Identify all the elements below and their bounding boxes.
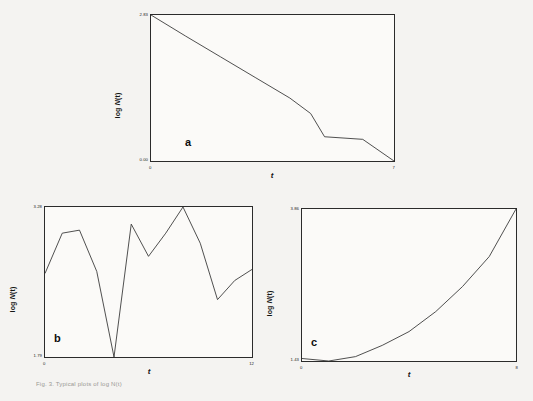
panel-a-xtick-left: 0: [149, 165, 167, 170]
panel-c-xtick-left: 0: [300, 365, 318, 370]
panel-c-ylabel: log N(t): [266, 257, 273, 317]
panel-b-letter: b: [54, 332, 61, 344]
panel-c-ytick-top: 3.86: [271, 206, 299, 211]
panel-b-plot-area: [44, 206, 253, 358]
figure-container: 2.83 0.00 log N(t) a 0 7 t 3.28 1.79 log…: [0, 0, 533, 401]
panel-a-xtick-right: 7: [377, 165, 395, 170]
panel-c-line-series: [302, 209, 516, 361]
panel-b-ylabel: log N(t): [9, 253, 16, 313]
panel-b-line-series: [45, 207, 252, 357]
panel-b-xtick-left: 0: [43, 361, 61, 366]
figure-caption: Fig. 3. Typical plots of log N(t): [36, 381, 366, 387]
panel-a-letter: a: [185, 136, 191, 148]
panel-b-xtick-right: 12: [236, 361, 254, 366]
panel-b-xlabel: t: [129, 367, 169, 376]
panel-a-ytick-bottom: 0.00: [120, 157, 148, 162]
panel-c-plot-area: [301, 208, 517, 362]
panel-a-ytick-top: 2.83: [120, 12, 148, 17]
panel-a-ylabel: log N(t): [114, 59, 121, 119]
panel-c-xlabel: t: [389, 370, 429, 379]
panel-a-xlabel: t: [252, 171, 292, 180]
panel-c-xtick-right: 8: [500, 365, 518, 370]
panel-c-ytick-bottom: 1.43: [271, 357, 299, 362]
panel-c-letter: c: [311, 336, 317, 348]
panel-b-ytick-bottom: 1.79: [14, 353, 42, 358]
panel-b-ytick-top: 3.28: [14, 204, 42, 209]
